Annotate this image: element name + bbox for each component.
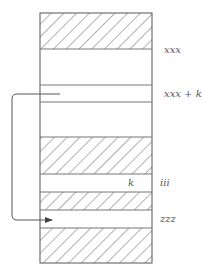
memory-diagram: xxx xxx + k k iii zzz — [0, 0, 203, 269]
label-zzz: zzz — [159, 213, 177, 224]
hatched-band-2 — [40, 137, 152, 174]
hatched-band-1 — [40, 13, 152, 49]
label-xxx-plus-k: xxx + k — [164, 88, 202, 99]
hatched-band-3 — [40, 192, 152, 210]
label-xxx: xxx — [164, 44, 181, 55]
hatched-band-4 — [40, 228, 152, 263]
label-k: k — [128, 177, 134, 188]
label-iii: iii — [160, 177, 170, 188]
